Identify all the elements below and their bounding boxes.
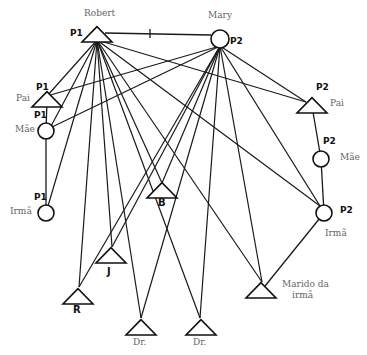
label-dr1: Dr.: [133, 337, 147, 347]
label-irma1: Irmã: [10, 206, 32, 216]
marriage-line: [105, 33, 211, 35]
label-pai2: Pai: [330, 98, 344, 108]
tag-irma1: P1: [34, 192, 47, 202]
tag-pai2: P2: [316, 82, 329, 92]
label-j: J: [106, 266, 111, 277]
node-r: [63, 289, 93, 304]
edge-mary-pai2: [220, 46, 306, 102]
label-b: B: [158, 197, 166, 208]
tag-mae1: P1: [34, 110, 47, 120]
edge-robert-r: [79, 40, 97, 287]
label-irma2: Irmã: [325, 228, 347, 238]
node-pai2: [297, 98, 327, 113]
network-diagram: Robert Mary P1 P2 Pai P1 Mãe P1 Irmã P1 …: [0, 0, 367, 355]
node-mae1: [38, 123, 54, 139]
node-b: [147, 183, 177, 198]
edges-layer: [47, 40, 320, 318]
label-robert: Robert: [84, 8, 116, 18]
edge-robert-marido: [97, 40, 262, 282]
node-irma1: [38, 205, 54, 221]
tag-robert: P1: [70, 28, 83, 38]
tag-mary: P2: [230, 36, 243, 46]
edge-mary-j: [112, 46, 220, 247]
edge-robert-irma1: [48, 40, 97, 206]
edge-mary-marido: [220, 46, 262, 282]
label-mary: Mary: [208, 10, 233, 20]
node-pai1: [32, 92, 62, 107]
node-marido: [246, 283, 276, 298]
node-dr1: [126, 320, 156, 335]
edge-mary-dr1: [141, 46, 220, 318]
node-mae2: [313, 151, 329, 167]
edge-robert-pai2: [97, 40, 306, 102]
edge-mary-mae1: [50, 46, 220, 128]
label-marido-line1: Marido da: [282, 279, 330, 289]
label-mae2: Mãe: [340, 152, 360, 162]
tag-irma2: P2: [340, 205, 353, 215]
node-irma2: [316, 205, 332, 221]
node-mary: [211, 30, 229, 48]
tag-mae2: P2: [323, 136, 336, 146]
edge-mary-pai1: [47, 46, 220, 96]
edge-mary-irma2: [220, 46, 320, 206]
node-robert: [82, 27, 112, 42]
label-marido-line2: irmã: [292, 290, 314, 300]
node-dr2: [186, 320, 216, 335]
edge-robert-j: [97, 40, 112, 247]
label-pai1: Pai: [16, 93, 30, 103]
tag-pai1: P1: [36, 82, 49, 92]
label-dr2: Dr.: [193, 337, 207, 347]
edge-robert-dr1: [97, 40, 141, 318]
label-r: R: [73, 304, 81, 315]
label-mae1: Mãe: [15, 124, 35, 134]
